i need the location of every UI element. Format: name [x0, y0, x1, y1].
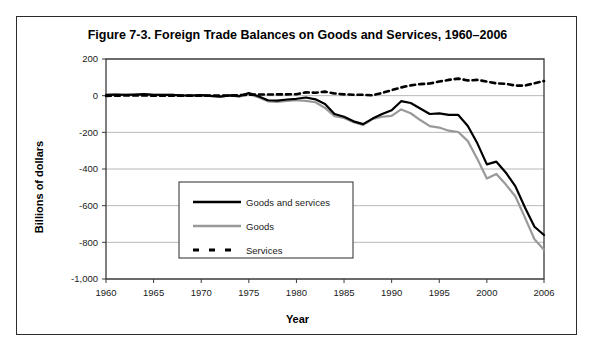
y-tick-label: -400: [79, 163, 98, 174]
y-tick-label: -800: [79, 237, 98, 248]
figure-title: Figure 7-3. Foreign Trade Balances on Go…: [88, 28, 508, 42]
x-tick-label: 2006: [533, 287, 554, 298]
y-axis-title: Billions of dollars: [33, 141, 45, 233]
x-tick-label: 1960: [95, 287, 116, 298]
x-tick-label: 1995: [429, 287, 450, 298]
x-axis-tick-labels: 1960196519701975198019851990199520002006: [95, 287, 554, 298]
x-tick-label: 1985: [333, 287, 354, 298]
y-tick-label: 200: [82, 53, 98, 64]
x-tick-label: 1980: [286, 287, 307, 298]
series-line-services: [106, 79, 544, 96]
x-tick-label: 1965: [143, 287, 164, 298]
y-tick-label: -1,000: [71, 273, 98, 284]
x-tick-label: 2000: [476, 287, 497, 298]
x-tick-label: 1970: [191, 287, 212, 298]
trade-balance-line-chart: Figure 7-3. Foreign Trade Balances on Go…: [17, 17, 578, 336]
figure-frame: Figure 7-3. Foreign Trade Balances on Go…: [16, 16, 577, 335]
x-axis-title: Year: [286, 313, 310, 325]
legend-label: Services: [246, 245, 283, 256]
y-tick-label: 0: [93, 90, 98, 101]
y-tick-label: -600: [79, 200, 98, 211]
y-tick-label: -200: [79, 127, 98, 138]
legend-label: Goods and services: [246, 197, 330, 208]
x-tick-label: 1975: [238, 287, 259, 298]
x-tick-label: 1990: [381, 287, 402, 298]
y-axis-tick-labels: 2000-200-400-600-800-1,000: [71, 53, 98, 284]
chart-legend: Goods and servicesGoodsServices: [179, 182, 353, 258]
legend-label: Goods: [246, 221, 274, 232]
